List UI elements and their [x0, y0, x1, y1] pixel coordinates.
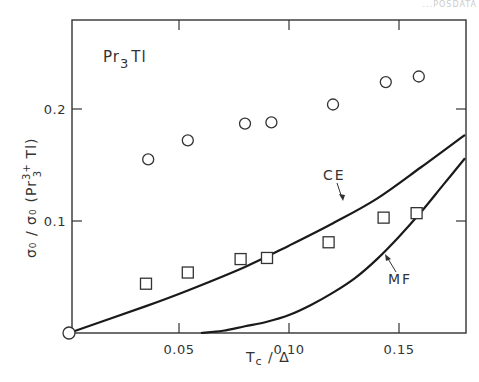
chart: 0.050.100.15 0.10.2 Pr3Tl CE MF Tc / Δ σ…	[0, 0, 479, 382]
square-marker	[141, 278, 152, 289]
circle-marker	[143, 154, 154, 165]
ce-arrowhead-icon	[339, 194, 345, 201]
x-tick-label: 0.05	[164, 342, 195, 357]
compound-label: Pr3Tl	[103, 48, 147, 71]
x-axis-ticks: 0.050.100.15	[164, 20, 415, 357]
mf-label: MF	[388, 271, 412, 287]
circle-marker	[182, 135, 193, 146]
circle-marker	[328, 99, 339, 110]
ce-label: CE	[323, 167, 346, 183]
curves	[69, 135, 465, 333]
x-tick-label: 0.15	[384, 342, 415, 357]
square-marker	[182, 267, 193, 278]
y-tick-label: 0.1	[44, 214, 66, 229]
square-marker	[235, 254, 246, 265]
square-marker	[262, 252, 273, 263]
x-axis-label: Tc / Δ	[245, 349, 290, 368]
data-points	[63, 71, 424, 339]
square-marker	[378, 212, 389, 223]
y-tick-label: 0.2	[44, 102, 66, 117]
mf-arrowhead-icon	[385, 254, 391, 261]
circle-marker	[380, 77, 391, 88]
circle-marker	[266, 117, 277, 128]
circle-marker	[413, 71, 424, 82]
circle-marker	[63, 327, 75, 339]
curve-ce	[69, 135, 465, 333]
y-axis-label: σ₀ / σ₀(Pr3+3 Tl)	[21, 138, 43, 259]
circle-marker	[240, 118, 251, 129]
square-marker	[411, 208, 422, 219]
square-marker	[323, 237, 334, 248]
y-axis-ticks: 0.10.2	[44, 102, 466, 229]
